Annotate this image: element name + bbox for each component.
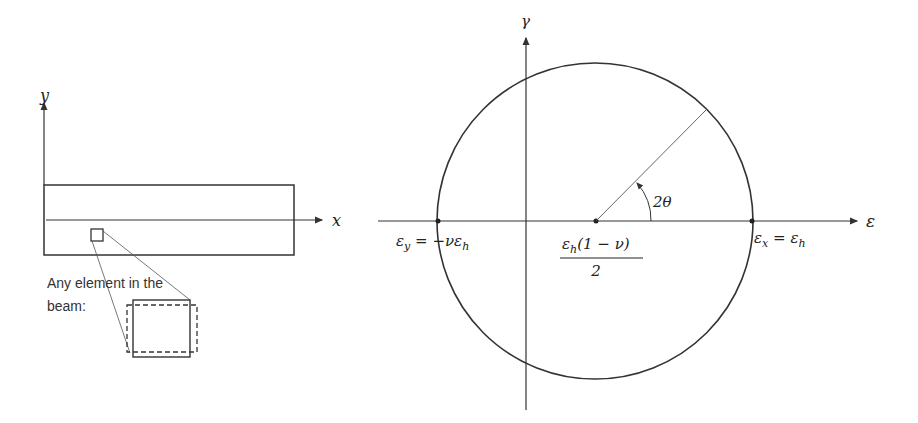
- point-epsilon-y: [436, 219, 441, 224]
- angle-arc: [637, 183, 651, 221]
- epsilon-x-label: εx = εh: [754, 229, 806, 250]
- gamma-axis-label: γ: [521, 12, 530, 30]
- diagram-canvas: y x Any element in the beam: γ ε: [0, 0, 918, 423]
- point-epsilon-x: [750, 219, 755, 224]
- center-label-numerator: εh(1 − ν): [562, 235, 630, 256]
- beam-y-axis-label: y: [39, 86, 50, 105]
- element-caption-line1: Any element in the: [47, 275, 163, 291]
- element-caption-line2: beam:: [47, 298, 86, 314]
- mohr-circle-figure: γ ε 2θ εy = −νεh εx = εh εh(1 − ν) 2: [378, 12, 875, 410]
- element-deformed-square: [127, 305, 197, 352]
- angle-label: 2θ: [652, 193, 672, 211]
- beam-small-element: [91, 229, 103, 241]
- center-label-denominator: 2: [590, 262, 601, 280]
- beam-figure: y x Any element in the beam:: [39, 86, 341, 357]
- zoom-line-left: [92, 241, 130, 353]
- epsilon-y-label: εy = −νεh: [396, 232, 469, 253]
- beam-x-axis-label: x: [332, 211, 341, 230]
- element-original-square: [133, 300, 190, 357]
- radius-line: [596, 110, 706, 221]
- epsilon-axis-label: ε: [866, 211, 875, 231]
